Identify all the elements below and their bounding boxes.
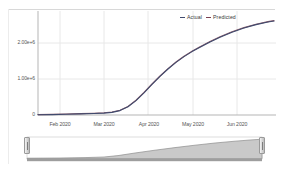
chart-widget: Actual Predicted 2.00e+6 1.00e+6 0 Feb 2…: [0, 0, 283, 172]
vertical-gridlines: [60, 11, 237, 115]
x-tick-label-mar: Mar 2020: [86, 122, 122, 127]
x-tick-label-may: May 2020: [175, 122, 211, 127]
legend-swatch-predicted: [206, 17, 211, 18]
series-predicted-line: [38, 21, 274, 115]
range-navigator[interactable]: [0, 134, 283, 172]
y-tick-label-2: 2.00e+6: [8, 40, 35, 45]
navigator-right-handle[interactable]: [259, 137, 265, 154]
legend-label-predicted: Predicted: [213, 15, 236, 20]
legend-swatch-actual: [180, 17, 185, 18]
series-actual-line: [38, 21, 274, 115]
legend-item-actual[interactable]: Actual: [180, 15, 202, 20]
navigator-baseline: [27, 159, 262, 162]
legend-label-actual: Actual: [187, 15, 202, 20]
x-tick-label-feb: Feb 2020: [42, 122, 78, 127]
y-tick-label-1: 1.00e+6: [8, 76, 35, 81]
navigator-left-handle[interactable]: [24, 137, 30, 154]
navigator-canvas[interactable]: [0, 134, 283, 172]
navigator-left-grip: [27, 142, 28, 150]
legend-item-predicted[interactable]: Predicted: [206, 15, 236, 20]
chart-legend: Actual Predicted: [180, 13, 236, 22]
x-tick-label-apr: Apr 2020: [131, 122, 167, 127]
horizontal-gridlines: [38, 43, 276, 79]
navigator-right-grip: [262, 142, 263, 150]
y-tick-label-0: 0: [8, 112, 35, 117]
chart-canvas: [0, 0, 283, 134]
x-tick-label-jun: Jun 2020: [219, 122, 255, 127]
main-chart: Actual Predicted 2.00e+6 1.00e+6 0 Feb 2…: [0, 0, 283, 134]
